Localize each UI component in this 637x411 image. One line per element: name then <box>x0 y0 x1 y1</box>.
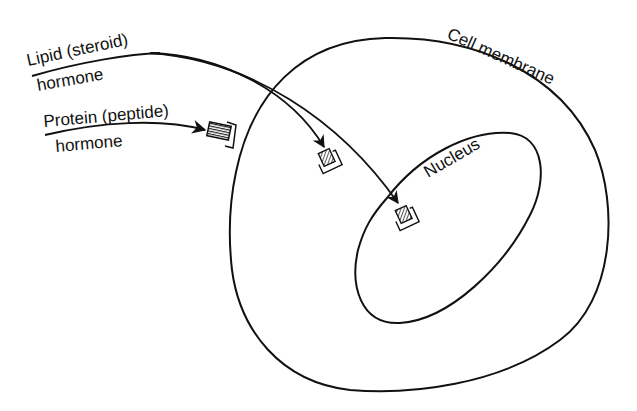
nuclear-receptor <box>392 204 419 231</box>
lipid-hormone-arrow-nucleus <box>150 53 398 203</box>
cell-membrane-label: Cell membrane <box>444 24 557 88</box>
cytoplasmic-receptor <box>315 147 342 174</box>
hormone-diagram: Lipid (steroid) hormone Protein (peptide… <box>0 0 637 411</box>
cell-membrane <box>230 38 609 391</box>
membrane-receptor <box>207 122 236 148</box>
lipid-label-line2: hormone <box>35 65 104 95</box>
protein-label-line2: hormone <box>55 131 124 156</box>
lipid-hormone-arrow-cytoplasm <box>150 53 324 147</box>
protein-label-line1: Protein (peptide) <box>43 101 170 131</box>
diagram-canvas: Lipid (steroid) hormone Protein (peptide… <box>0 0 637 411</box>
